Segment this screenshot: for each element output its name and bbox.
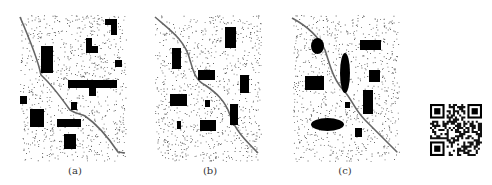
figure-svg: [0, 0, 492, 185]
building-block: [86, 46, 98, 53]
building-block: [360, 40, 381, 50]
building-block: [198, 70, 215, 80]
figure-canvas: [0, 0, 492, 185]
building-block: [200, 120, 216, 131]
building-block: [230, 104, 238, 125]
panel-b: [155, 15, 262, 161]
panel-label-c: (c): [325, 165, 365, 176]
building-block: [305, 76, 324, 90]
building-block: [89, 88, 96, 96]
panel-label-a: (a): [55, 165, 95, 176]
panel-a: [20, 15, 127, 161]
building-block: [68, 80, 117, 88]
building-ellipse: [311, 118, 344, 131]
qr-code[interactable]: [430, 104, 482, 156]
building-block: [170, 94, 187, 106]
panel-label-b: (b): [190, 165, 230, 176]
building-block: [240, 75, 249, 93]
building-block: [172, 48, 181, 69]
building-block: [345, 102, 350, 108]
building-block: [57, 119, 81, 127]
building-block: [111, 19, 117, 35]
building-ellipse: [311, 38, 324, 54]
building-block: [225, 27, 236, 48]
building-block: [41, 46, 53, 73]
building-block: [177, 121, 181, 129]
building-block: [71, 102, 77, 110]
building-block: [355, 128, 362, 137]
building-block: [30, 109, 44, 127]
building-block: [20, 96, 27, 104]
building-block: [363, 90, 373, 114]
building-block: [205, 100, 210, 107]
building-block: [369, 70, 380, 82]
panel-c: [292, 15, 400, 162]
building-block: [115, 60, 122, 67]
building-ellipse: [340, 53, 350, 93]
building-block: [64, 134, 76, 149]
